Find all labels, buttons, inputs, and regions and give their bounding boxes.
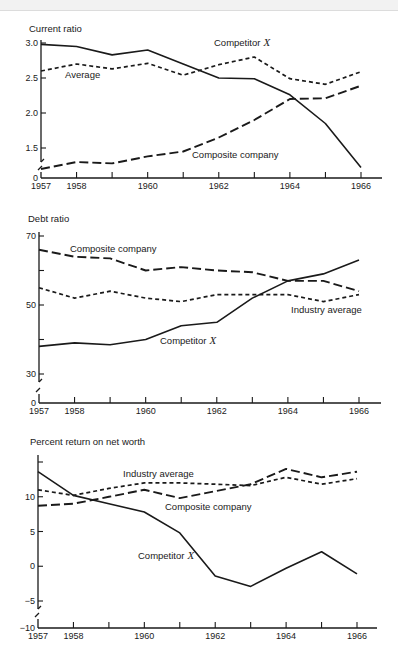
y-tick-label: 70 [26,231,36,241]
y-tick-label: 5 [30,527,35,537]
y-tick-label: 2.0 [25,108,38,118]
series-line-industry-average [39,288,359,302]
annotation-competitor-x: CompetitorX [214,36,271,48]
x-tick-label: 1966 [351,181,371,191]
y-tick-label: 30 [26,369,36,379]
y-tick-label: 3.0 [25,38,38,48]
x-tick-label: 1960 [138,181,158,191]
x-tick-label: 1960 [136,406,156,416]
series-line-industry-average [38,477,357,495]
x-tick-label: 1958 [67,181,87,191]
series-line-competitor-x [38,472,357,587]
series-line-composite-company [39,250,359,291]
annotation-competitor-x: CompetitorX [160,334,217,346]
y-tick-label: 0 [30,561,35,571]
y-tick-label: 10 [25,492,35,502]
y-tick-label: −10 [20,623,35,633]
figure: Current ratio 19571958196019621964196601… [0,0,398,654]
chart-title: Percent return on net worth [30,436,145,447]
y-tick-label: 0 [33,173,38,183]
annotation-industry-average: Industry average [123,468,194,479]
x-tick-label: 1958 [65,406,85,416]
y-tick-label: 0 [31,398,36,408]
annotation-average: Average [65,69,100,80]
annotation-composite-company: Composite company [70,243,157,254]
chart-return-on-net-worth: Percent return on net worth 195719581960… [20,436,377,641]
annotation-composite-company: Composite company [165,501,252,512]
x-tick-label: 1964 [276,631,296,641]
y-tick-label: 1.5 [25,143,38,153]
annotation-composite-company: Composite company [192,149,279,160]
chart-title: Current ratio [29,23,82,34]
y-tick-label: −5 [25,596,35,606]
annotation-competitor-x: CompetitorX [138,549,195,561]
x-tick-label: 1962 [205,631,225,641]
x-tick-label: 1962 [207,406,227,416]
chart-current-ratio: Current ratio 19571958196019621964196601… [25,23,382,191]
x-tick-label: 1966 [349,406,369,416]
x-tick-label: 1962 [209,181,229,191]
chart-debt-ratio: Debt ratio 19571958196019621964196603050… [26,213,381,416]
chart-title: Debt ratio [28,213,69,224]
x-tick-label: 1964 [280,181,300,191]
x-tick-label: 1960 [134,631,154,641]
x-tick-label: 1958 [63,631,83,641]
x-tick-label: 1966 [347,631,367,641]
y-tick-label: 2.5 [25,73,38,83]
y-tick-label: 50 [26,300,36,310]
x-tick-label: 1964 [278,406,298,416]
annotation-industry-average: Industry average [291,304,362,315]
